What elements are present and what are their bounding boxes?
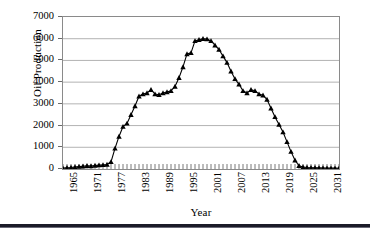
x-axis-title: Year (62, 206, 340, 218)
footer-rule-shadow (0, 227, 370, 228)
chart-figure: Oil Production 7000600050004000300020001… (0, 0, 370, 232)
x-axis-tick-labels: 1965197119771983198919952001200720132019… (0, 0, 370, 232)
